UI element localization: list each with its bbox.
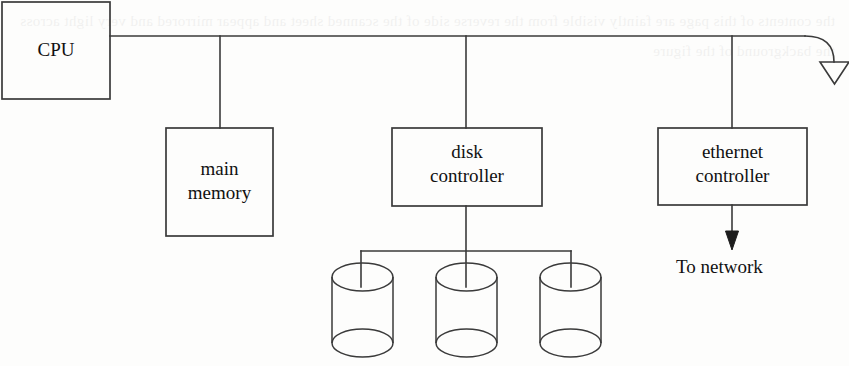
main-memory-label: main memory xyxy=(166,157,273,205)
figure-canvas: the contents of this page are faintly vi… xyxy=(0,0,849,366)
to-network-arrowhead xyxy=(726,231,739,250)
to-network-label: To network xyxy=(676,256,763,278)
main-memory-label-line1: main xyxy=(166,157,273,181)
cpu-label: CPU xyxy=(2,38,110,62)
ethernet-controller-label: ethernet controller xyxy=(658,140,807,188)
bus-terminator-arrowhead xyxy=(820,62,849,84)
ethernet-controller-label-line2: controller xyxy=(658,164,807,188)
main-memory-label-line2: memory xyxy=(166,181,273,205)
disk-controller-label-line2: controller xyxy=(392,164,542,188)
ethernet-controller-label-line1: ethernet xyxy=(658,140,807,164)
disk-controller-label-line1: disk xyxy=(392,140,542,164)
bus-curve-right xyxy=(805,36,834,62)
disk-1-cylinder xyxy=(332,263,393,357)
disk-controller-label: disk controller xyxy=(392,140,542,188)
